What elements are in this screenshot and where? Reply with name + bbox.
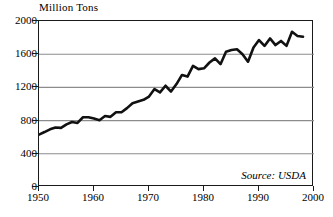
x-tick-label-2000: 2000 [293, 192, 333, 203]
x-tick-mark-1980 [203, 186, 204, 191]
x-tick-mark-1990 [258, 186, 259, 191]
x-tick-mark-2000 [313, 186, 314, 191]
x-tick-mark-1950 [38, 186, 39, 191]
x-tick-label-1960: 1960 [73, 192, 113, 203]
y-axis-title: Million Tons [39, 1, 98, 14]
x-tick-mark-1970 [148, 186, 149, 191]
plot-area: Source: USDA [38, 20, 313, 186]
gridlines [39, 54, 314, 154]
x-tick-label-1980: 1980 [183, 192, 223, 203]
x-tick-label-1970: 1970 [128, 192, 168, 203]
chart-figure: Million Tons 2000 1600 1200 800 400 0 So… [0, 0, 333, 217]
source-annotation: Source: USDA [241, 169, 306, 181]
x-tick-mark-1960 [93, 186, 94, 191]
plot-svg [39, 21, 314, 187]
data-series-line [39, 32, 303, 135]
x-tick-label-1990: 1990 [238, 192, 278, 203]
x-tick-label-1950: 1950 [18, 192, 58, 203]
